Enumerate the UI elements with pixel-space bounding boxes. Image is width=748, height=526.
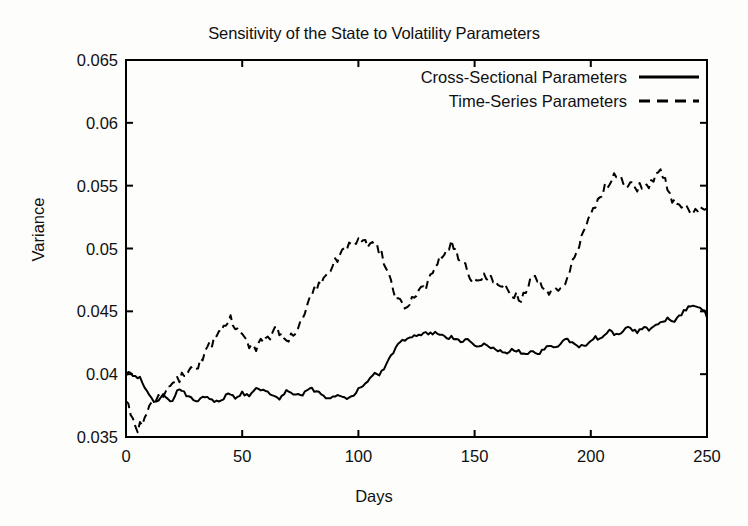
chart-figure: Sensitivity of the State to Volatility P…: [0, 0, 748, 526]
plot-canvas: [0, 0, 748, 526]
data-series-layer: [126, 169, 707, 432]
axis-ticks: [126, 60, 707, 437]
series-line: [126, 169, 707, 432]
axes-frame: [126, 60, 707, 437]
series-line: [126, 306, 707, 402]
